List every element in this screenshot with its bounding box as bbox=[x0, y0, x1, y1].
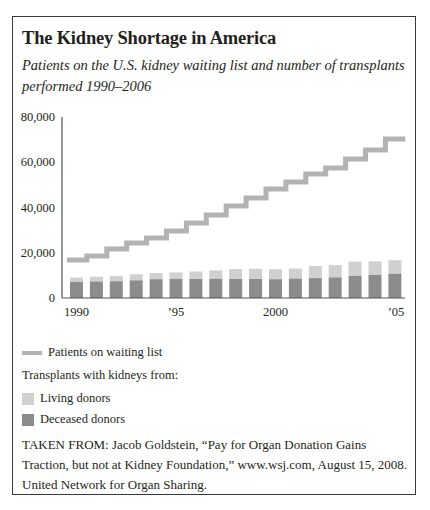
deceased-donors-bar bbox=[349, 276, 362, 298]
source-note: TAKEN FROM: Jacob Goldstein, “Pay for Or… bbox=[22, 435, 414, 495]
legend-label: Patients on waiting list bbox=[48, 345, 162, 360]
deceased-donors-bar bbox=[249, 279, 262, 298]
living-donors-bar bbox=[309, 266, 322, 278]
deceased-donors-bar bbox=[70, 282, 83, 298]
living-donors-bar bbox=[209, 270, 222, 278]
deceased-donors-bar bbox=[170, 279, 183, 298]
living-donors-bar bbox=[249, 269, 262, 279]
deceased-donors-bar bbox=[289, 279, 302, 298]
y-axis-ticks: 020,00040,00060,00080,000 bbox=[21, 110, 55, 305]
deceased-donors-bar bbox=[90, 281, 103, 298]
legend-waiting-list: Patients on waiting list bbox=[22, 345, 162, 360]
deceased-donors-bar bbox=[130, 280, 143, 298]
living-donors-swatch bbox=[22, 393, 34, 405]
deceased-donors-bar bbox=[329, 277, 342, 298]
y-tick-label: 0 bbox=[49, 291, 55, 305]
y-tick-label: 80,000 bbox=[21, 110, 55, 124]
legend-living-donors: Living donors bbox=[22, 391, 110, 406]
living-donors-bar bbox=[369, 261, 382, 275]
deceased-donors-bar bbox=[229, 279, 242, 298]
living-donors-bar bbox=[170, 272, 183, 279]
living-donors-bar bbox=[229, 269, 242, 279]
living-donors-bar bbox=[269, 269, 282, 279]
legend-heading: Transplants with kidneys from: bbox=[22, 368, 178, 383]
chart-plot: 020,00040,00060,00080,000 1990’952000’05 bbox=[0, 0, 430, 330]
living-donors-bar bbox=[289, 269, 302, 279]
deceased-donors-bar bbox=[309, 278, 322, 298]
deceased-donors-swatch bbox=[22, 414, 34, 426]
x-axis-ticks: 1990’952000’05 bbox=[64, 305, 404, 319]
deceased-donors-bar bbox=[369, 275, 382, 298]
living-donors-bar bbox=[130, 274, 143, 280]
living-donors-bar bbox=[189, 272, 202, 279]
deceased-donors-bar bbox=[110, 281, 123, 298]
legend-label: Living donors bbox=[40, 391, 110, 406]
bars bbox=[70, 260, 401, 298]
waiting-list-step-line bbox=[67, 139, 405, 260]
y-tick-label: 60,000 bbox=[21, 155, 55, 169]
living-donors-bar bbox=[90, 277, 103, 282]
x-tick-label: ’05 bbox=[388, 305, 405, 319]
deceased-donors-bar bbox=[269, 279, 282, 298]
living-donors-bar bbox=[349, 262, 362, 276]
legend-label: Deceased donors bbox=[40, 412, 125, 427]
living-donors-bar bbox=[110, 276, 123, 281]
deceased-donors-bar bbox=[150, 279, 163, 298]
y-tick-label: 40,000 bbox=[21, 201, 55, 215]
deceased-donors-bar bbox=[388, 274, 401, 298]
living-donors-bar bbox=[70, 278, 83, 282]
legend-heading-text: Transplants with kidneys from: bbox=[22, 368, 178, 383]
legend-deceased-donors: Deceased donors bbox=[22, 412, 125, 427]
living-donors-bar bbox=[329, 265, 342, 277]
living-donors-bar bbox=[388, 260, 401, 274]
x-tick-label: 1990 bbox=[64, 305, 89, 319]
deceased-donors-bar bbox=[209, 279, 222, 298]
x-tick-label: ’95 bbox=[168, 305, 185, 319]
waiting-list-swatch bbox=[22, 351, 42, 355]
y-tick-label: 20,000 bbox=[21, 246, 55, 260]
deceased-donors-bar bbox=[189, 279, 202, 298]
living-donors-bar bbox=[150, 273, 163, 279]
x-tick-label: 2000 bbox=[263, 305, 288, 319]
